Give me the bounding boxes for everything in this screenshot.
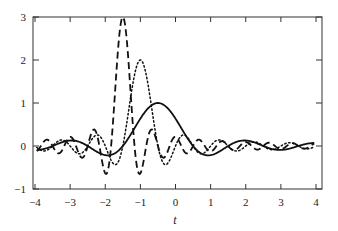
x-tick-label: −4 bbox=[29, 196, 41, 208]
y-tick-label: 1 bbox=[21, 97, 27, 109]
y-tick-label: 3 bbox=[21, 11, 27, 23]
x-tick-label: 3 bbox=[278, 196, 284, 208]
x-tick-label: −1 bbox=[135, 196, 147, 208]
x-tick-label: −3 bbox=[64, 196, 76, 208]
y-tick-label: 0 bbox=[21, 140, 27, 152]
x-tick-label: 2 bbox=[243, 196, 249, 208]
x-tick-label: 1 bbox=[208, 196, 214, 208]
chart: −4−3−2−101234−10123 t bbox=[0, 0, 338, 231]
x-tick-label: 0 bbox=[173, 196, 179, 208]
series-line-solid bbox=[37, 103, 314, 155]
series-group bbox=[37, 17, 314, 174]
y-tick-label: 2 bbox=[21, 54, 27, 66]
x-tick-label: 4 bbox=[313, 196, 319, 208]
series-line-dashed bbox=[37, 17, 314, 174]
y-tick-label: −1 bbox=[14, 183, 26, 195]
x-tick-label: −2 bbox=[99, 196, 111, 208]
x-axis-label: t bbox=[173, 213, 177, 227]
plot-frame bbox=[33, 17, 322, 189]
